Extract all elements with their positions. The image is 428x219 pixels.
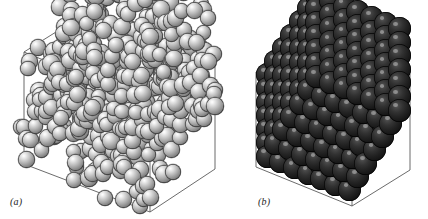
particle-sphere <box>100 62 116 78</box>
panel-label-a: (a) <box>10 196 22 207</box>
particle-sphere <box>388 99 411 122</box>
particle-cloud-a <box>10 4 225 219</box>
particle-sphere <box>68 69 84 85</box>
particle-sphere <box>53 110 69 126</box>
particle-lattice-b <box>248 28 420 213</box>
particle-sphere <box>114 104 129 119</box>
particle-sphere <box>86 3 103 20</box>
particle-sphere <box>97 190 113 206</box>
particle-sphere <box>206 97 224 115</box>
simulation-box-a <box>10 4 225 219</box>
panel-label-b: (b) <box>258 196 270 207</box>
particle-sphere <box>142 189 159 206</box>
particle-sphere <box>141 28 159 46</box>
particle-sphere <box>86 49 103 66</box>
particle-sphere <box>134 85 151 102</box>
simulation-box-b <box>248 28 420 213</box>
panel-b-crystal <box>248 28 420 213</box>
particle-sphere <box>133 67 150 84</box>
panel-a-fluid <box>10 4 225 219</box>
figure-canvas: (a) (b) <box>0 0 428 219</box>
particle-sphere <box>188 34 205 51</box>
particle-sphere <box>18 151 35 168</box>
particle-sphere <box>200 10 216 26</box>
particle-sphere <box>200 53 217 70</box>
particle-sphere <box>62 19 79 36</box>
particle-sphere <box>167 95 184 112</box>
particle-sphere <box>66 172 82 188</box>
particle-sphere <box>67 154 84 171</box>
particle-sphere <box>20 61 36 77</box>
particle-sphere <box>165 164 181 180</box>
particle-sphere <box>69 86 86 103</box>
